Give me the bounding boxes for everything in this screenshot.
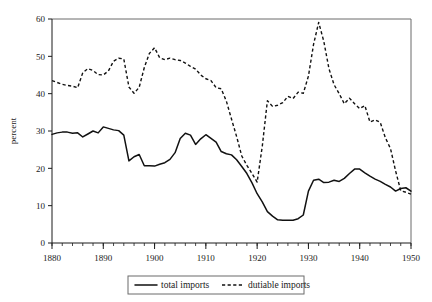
legend-label-total-imports: total imports <box>161 280 210 290</box>
y-tick-label: 50 <box>36 52 46 62</box>
x-tick-label: 1890 <box>94 253 113 263</box>
x-tick-label: 1880 <box>43 253 62 263</box>
chart-figure: 0102030405060 percent 188018901900191019… <box>0 0 432 302</box>
line-chart-svg: 0102030405060 percent 188018901900191019… <box>0 0 432 302</box>
y-tick-label: 30 <box>36 126 46 136</box>
x-tick-label: 1920 <box>248 253 267 263</box>
x-tick-label: 1940 <box>351 253 370 263</box>
x-tick-label: 1910 <box>197 253 216 263</box>
y-tick-label: 40 <box>36 89 46 99</box>
y-axis-title: percent <box>8 117 18 144</box>
y-tick-label: 60 <box>36 14 46 24</box>
x-tick-label: 1900 <box>146 253 165 263</box>
y-tick-label: 10 <box>36 201 46 211</box>
chart-legend: total imports dutiable imports <box>128 276 310 294</box>
x-tick-label: 1950 <box>402 253 421 263</box>
x-tick-label: 1930 <box>299 253 318 263</box>
y-tick-label: 0 <box>41 238 46 248</box>
y-tick-label: 20 <box>36 164 46 174</box>
legend-label-dutiable-imports: dutiable imports <box>248 280 310 290</box>
